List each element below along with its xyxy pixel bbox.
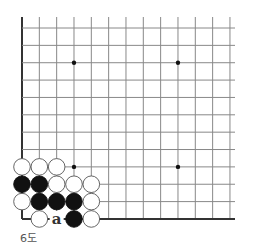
black-stone: [66, 211, 83, 228]
point-labels: a: [50, 210, 64, 228]
star-point: [176, 165, 180, 169]
star-point: [72, 165, 76, 169]
white-stone: [66, 176, 83, 193]
point-label: a: [52, 210, 62, 228]
white-stone: [14, 193, 31, 210]
diagram-caption: 6도: [20, 229, 37, 244]
white-stone: [14, 159, 31, 176]
black-stone: [31, 193, 48, 210]
star-point: [176, 61, 180, 65]
white-stone: [31, 211, 48, 228]
white-stone: [83, 193, 100, 210]
white-stone: [31, 159, 48, 176]
go-board-diagram: a: [0, 0, 254, 244]
black-stone: [66, 193, 83, 210]
black-stone: [14, 176, 31, 193]
star-point: [72, 61, 76, 65]
black-stone: [31, 176, 48, 193]
white-stone: [83, 176, 100, 193]
white-stone: [48, 176, 65, 193]
white-stone: [83, 211, 100, 228]
white-stone: [48, 159, 65, 176]
black-stone: [48, 193, 65, 210]
